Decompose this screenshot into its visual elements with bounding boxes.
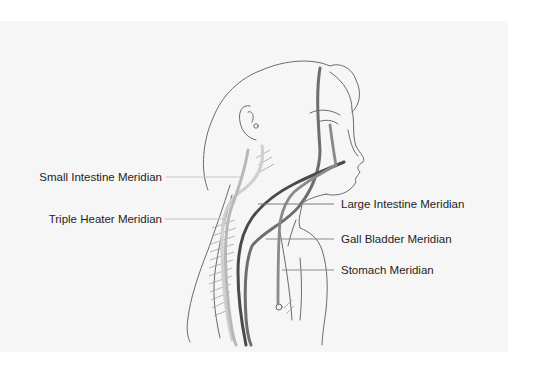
meridian-paths bbox=[222, 68, 344, 345]
body-outline bbox=[187, 61, 364, 345]
label-small-intestine-meridian: Small Intestine Meridian bbox=[20, 171, 162, 184]
label-gall-bladder-meridian: Gall Bladder Meridian bbox=[341, 233, 452, 246]
label-triple-heater-meridian: Triple Heater Meridian bbox=[20, 213, 162, 226]
large-intestine-path bbox=[238, 162, 344, 345]
label-large-intestine-meridian: Large Intestine Meridian bbox=[341, 198, 464, 211]
gall-bladder-path bbox=[245, 68, 320, 345]
label-stomach-meridian: Stomach Meridian bbox=[341, 264, 434, 277]
